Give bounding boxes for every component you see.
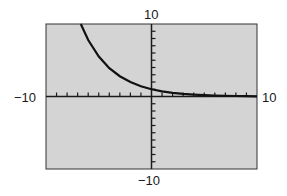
- y-min-label: −10: [138, 174, 160, 187]
- x-min-label: −10: [14, 91, 36, 104]
- x-max-label: 10: [262, 91, 276, 104]
- y-max-label: 10: [144, 8, 158, 21]
- function-graph: [0, 0, 287, 196]
